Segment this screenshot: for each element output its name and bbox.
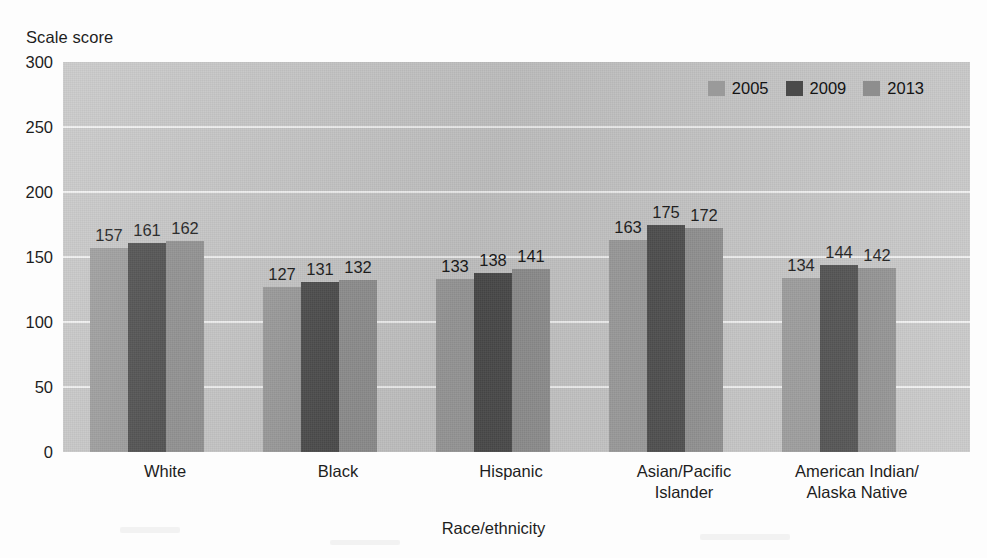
- y-tick-250: 250: [25, 118, 53, 137]
- legend-label-2009: 2009: [810, 79, 847, 98]
- bar-value-amind-2005: 134: [780, 256, 822, 275]
- bar-asian-2005[interactable]: [609, 240, 647, 452]
- bar-value-asian-2005: 163: [607, 218, 649, 237]
- bar-value-amind-2013: 142: [856, 246, 898, 265]
- legend-item-2013[interactable]: 2013: [863, 79, 924, 98]
- bar-value-hispanic-2013: 141: [510, 247, 552, 266]
- bar-black-2005[interactable]: [263, 287, 301, 452]
- legend-item-2005[interactable]: 2005: [708, 79, 769, 98]
- legend-swatch-2009-icon: [786, 81, 803, 96]
- bar-value-black-2013: 132: [337, 258, 379, 277]
- bar-white-2013[interactable]: [166, 241, 204, 452]
- bar-value-white-2013: 162: [164, 219, 206, 238]
- bar-value-white-2009: 161: [126, 221, 168, 240]
- legend-swatch-2005-icon: [708, 81, 725, 96]
- bar-value-asian-2013: 172: [683, 206, 725, 225]
- bar-asian-2013[interactable]: [685, 228, 723, 452]
- bar-amind-2005[interactable]: [782, 278, 820, 452]
- legend-item-2009[interactable]: 2009: [786, 79, 847, 98]
- legend-label-2013: 2013: [887, 79, 924, 98]
- bar-amind-2013[interactable]: [858, 268, 896, 452]
- y-tick-0: 0: [44, 443, 53, 462]
- legend-label-2005: 2005: [732, 79, 769, 98]
- bar-amind-2009[interactable]: [820, 265, 858, 452]
- bar-hispanic-2009[interactable]: [474, 273, 512, 452]
- bar-chart: Scale score 300 250 200 150 100 50 0 157…: [0, 0, 987, 558]
- bar-asian-2009[interactable]: [647, 225, 685, 452]
- y-tick-50: 50: [35, 378, 53, 397]
- bar-value-black-2009: 131: [299, 260, 341, 279]
- plot-area: 157 161 162 127 131 132 133 138 141: [63, 62, 970, 452]
- y-tick-150: 150: [25, 248, 53, 267]
- legend: 2005 2009 2013: [708, 79, 924, 98]
- x-category-label-amind: American Indian/ Alaska Native: [707, 461, 987, 503]
- y-axis-tick-labels: 300 250 200 150 100 50 0: [0, 62, 53, 452]
- y-axis-title: Scale score: [26, 28, 113, 47]
- bar-value-hispanic-2005: 133: [434, 257, 476, 276]
- gridline-250: [63, 126, 970, 128]
- bar-black-2009[interactable]: [301, 282, 339, 452]
- bar-hispanic-2013[interactable]: [512, 269, 550, 452]
- bar-value-asian-2009: 175: [645, 203, 687, 222]
- y-tick-200: 200: [25, 183, 53, 202]
- x-axis-title: Race/ethnicity: [0, 519, 987, 538]
- y-tick-300: 300: [25, 53, 53, 72]
- bar-value-hispanic-2009: 138: [472, 251, 514, 270]
- legend-swatch-2013-icon: [863, 81, 880, 96]
- bar-hispanic-2005[interactable]: [436, 279, 474, 452]
- bar-value-amind-2009: 144: [818, 243, 860, 262]
- y-tick-100: 100: [25, 313, 53, 332]
- bar-value-black-2005: 127: [261, 265, 303, 284]
- bar-white-2005[interactable]: [90, 248, 128, 452]
- bar-black-2013[interactable]: [339, 280, 377, 452]
- bar-white-2009[interactable]: [128, 243, 166, 452]
- gridline-200: [63, 191, 970, 193]
- bar-value-white-2005: 157: [88, 226, 130, 245]
